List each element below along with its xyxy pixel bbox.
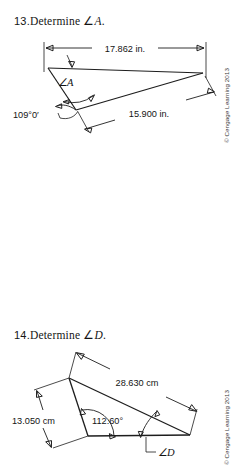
angle-label-A: ∠A <box>58 77 74 88</box>
dimension-label-15900: 15.900 in. <box>129 109 169 119</box>
figure-14-angle-D-indicator: ∠D <box>138 411 175 459</box>
figure-13-dimension-top: 17.862 in. <box>46 44 204 54</box>
figure-14-angle-11260-indicator: 112.60° <box>80 409 123 439</box>
problem-14: 14.Determine ∠D. 28.630 cm <box>0 160 234 317</box>
dimension-label-13050: 13.050 cm <box>12 416 55 426</box>
copyright-notice-14: © Cengage Learning 2013 <box>223 390 230 465</box>
problem-13: 13.Determine ∠A. 17.862 in. <box>0 0 234 160</box>
figure-14-triangle-diagram: 28.630 cm 13.050 cm 112.60° <box>0 160 234 469</box>
figure-13-triangle-outline <box>48 68 203 110</box>
angle-label-D: ∠D <box>158 447 175 458</box>
dimension-label-28630: 28.630 cm <box>116 378 159 388</box>
copyright-notice-13: © Cengage Learning 2013 <box>223 68 230 143</box>
figure-13-dimension-lower-right: 15.900 in. <box>78 76 216 133</box>
angle-label-109: 109°0′ <box>13 110 39 120</box>
figure-14-dimension-28630: 28.630 cm <box>69 352 197 435</box>
figure-13-leader-top-side <box>67 55 75 68</box>
dimension-label-17862: 17.862 in. <box>105 44 145 54</box>
figure-14-dimension-13050: 13.050 cm <box>12 378 88 448</box>
figure-13-angle-109-indicator: 109°0′ <box>13 104 78 120</box>
angle-label-11260: 112.60° <box>92 416 123 426</box>
figure-13-triangle-diagram: 17.862 in. ∠A 109°0′ <box>0 0 234 160</box>
